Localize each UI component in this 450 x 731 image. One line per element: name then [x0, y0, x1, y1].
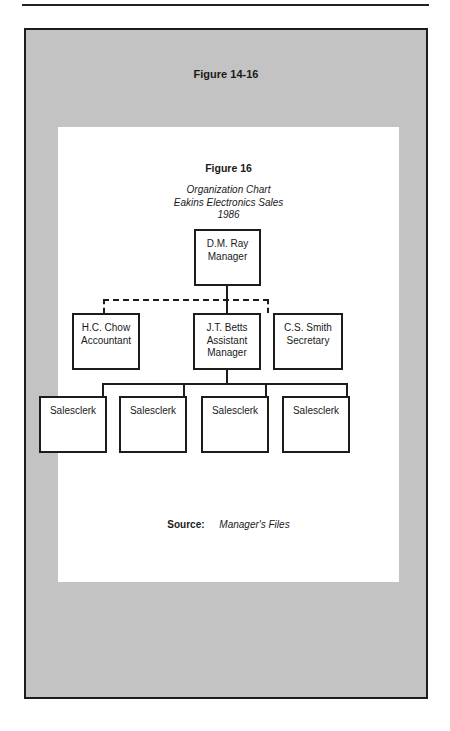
connector-clerk-3: [265, 383, 267, 397]
org-box-role-line2: Manager: [195, 347, 259, 360]
connector-clerk-2: [183, 383, 185, 397]
org-box-salesclerk-4: Salesclerk: [282, 396, 350, 453]
org-box-secretary: C.S. Smith Secretary: [273, 313, 343, 370]
figure-subtitle: Organization Chart Eakins Electronics Sa…: [58, 184, 399, 222]
org-box-role: Manager: [196, 251, 259, 264]
org-box-name: H.C. Chow: [74, 322, 138, 335]
figure-source: Source: Manager's Files: [58, 519, 399, 530]
connector-dashed-right: [267, 299, 269, 313]
source-value: Manager's Files: [219, 519, 289, 530]
source-label: Source:: [167, 519, 204, 530]
figure-frame: Figure 14-16 Figure 16 Organization Char…: [24, 28, 428, 699]
org-box-role: Salesclerk: [284, 405, 348, 418]
connector-clerks-horizontal: [102, 383, 348, 385]
org-box-role: Secretary: [275, 335, 341, 348]
connector-clerk-1: [102, 383, 104, 397]
connector-dashed-left: [103, 299, 105, 313]
org-box-role: Salesclerk: [41, 405, 105, 418]
org-box-salesclerk-3: Salesclerk: [201, 396, 269, 453]
org-box-salesclerk-1: Salesclerk: [39, 396, 107, 453]
org-box-role: Salesclerk: [203, 405, 267, 418]
subtitle-line-chart: Organization Chart: [58, 184, 399, 197]
connector-dashed-horizontal: [103, 299, 269, 301]
page-top-rule: [22, 4, 429, 6]
org-box-role: Assistant: [195, 335, 259, 348]
org-box-role: Salesclerk: [121, 405, 185, 418]
org-box-name: J.T. Betts: [195, 322, 259, 335]
org-box-name: D.M. Ray: [196, 238, 259, 251]
figure-title: Figure 16: [58, 162, 399, 174]
subtitle-line-company: Eakins Electronics Sales: [58, 197, 399, 210]
outer-figure-title: Figure 14-16: [26, 68, 426, 80]
org-box-salesclerk-2: Salesclerk: [119, 396, 187, 453]
org-box-role: Accountant: [74, 335, 138, 348]
org-box-manager: D.M. Ray Manager: [194, 229, 261, 286]
org-box-name: C.S. Smith: [275, 322, 341, 335]
connector-betts-down: [226, 370, 228, 384]
connector-clerk-4: [346, 383, 348, 397]
subtitle-line-year: 1986: [58, 209, 399, 222]
org-box-assistant-manager: J.T. Betts Assistant Manager: [193, 313, 261, 370]
org-box-accountant: H.C. Chow Accountant: [72, 313, 140, 370]
figure-panel: Figure 16 Organization Chart Eakins Elec…: [58, 127, 399, 582]
